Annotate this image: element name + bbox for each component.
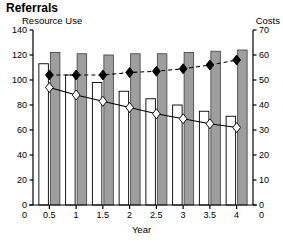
left-axis-tick-label: 140 [0,26,27,35]
right-axis-tick-label: 40 [259,101,283,110]
bar-gray [211,51,221,205]
right-axis-tick-label: 50 [259,76,283,85]
right-axis-tick-label: 30 [259,126,283,135]
axis-zero-label-right: 0 [259,211,283,220]
left-axis-tick-label: 0 [0,201,27,210]
axis-zero-label-left: 0 [0,211,27,220]
bar-gray [131,54,141,205]
right-axis-tick-label: 10 [259,176,283,185]
left-axis-tick-label: 20 [0,176,27,185]
bar-gray [184,53,194,206]
left-axis-tick-label: 60 [0,126,27,135]
left-axis-tick-label: 100 [0,76,27,85]
right-axis-tick-label: 60 [259,51,283,60]
right-axis-tick-label: 70 [259,26,283,35]
axes-layer [29,30,257,209]
bar-gray [157,54,167,205]
left-axis-tick-label: 120 [0,51,27,60]
left-axis-tick-label: 40 [0,151,27,160]
right-axis-tick-label: 0 [259,201,283,210]
bars-layer [39,50,247,205]
chart-container: Referrals Resource Use Costs Year 020406… [0,0,283,242]
right-axis-tick-label: 20 [259,151,283,160]
left-axis-tick-label: 80 [0,101,27,110]
chart-plot-area [0,0,283,242]
x-axis-tick-label: 4 [221,211,253,220]
